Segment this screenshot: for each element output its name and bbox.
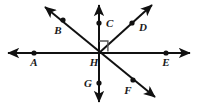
point-label-a: A: [29, 56, 37, 68]
point-label-f: F: [123, 84, 132, 96]
geometry-figure: A B C D E F G H: [0, 0, 199, 109]
geometry-canvas: A B C D E F G H: [0, 0, 199, 109]
point-label-h: H: [89, 56, 99, 68]
point-a-dot: [31, 50, 36, 55]
point-label-e: E: [161, 56, 169, 68]
point-g-dot: [96, 80, 101, 85]
point-f-dot: [130, 77, 135, 82]
point-label-b: B: [53, 24, 61, 36]
point-label-c: C: [106, 17, 114, 29]
point-label-g: G: [84, 77, 92, 89]
point-label-d: D: [138, 21, 147, 33]
point-c-dot: [96, 20, 101, 25]
point-b-dot: [60, 17, 65, 22]
point-e-dot: [163, 50, 168, 55]
point-d-dot: [129, 20, 134, 25]
